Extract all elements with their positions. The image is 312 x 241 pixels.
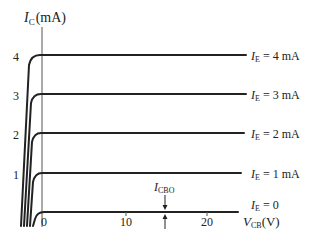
x-axis-title: VCB(V) (243, 214, 280, 230)
x-tick-label: 10 (120, 215, 132, 229)
y-axis-title: IC(mA) (23, 10, 66, 27)
curve-ie-4ma (21, 55, 246, 226)
y-tick-label: 1 (13, 168, 19, 182)
y-tick-label: 2 (13, 128, 19, 142)
curve-label-ie-2ma: IE = 2 mA (250, 127, 300, 142)
x-tick-label: 0 (41, 215, 47, 229)
curve-label-ie-3ma: IE = 3 mA (250, 88, 300, 103)
curve-ie-3ma (24, 94, 246, 226)
chart-canvas: IC(mA) 1 2 3 4 0 10 20 VCB(V) IE = 4 mA … (0, 0, 312, 241)
curves (21, 55, 246, 226)
curve-label-ie-0: IE = 0 (250, 198, 279, 213)
x-tick-label: 20 (201, 215, 213, 229)
icbo-annotation: ICBO (153, 180, 175, 195)
y-tick-label: 4 (13, 50, 19, 64)
y-tick-label: 3 (13, 89, 19, 103)
curve-label-ie-4ma: IE = 4 mA (250, 49, 300, 64)
curve-label-ie-1ma: IE = 1 mA (250, 167, 300, 182)
